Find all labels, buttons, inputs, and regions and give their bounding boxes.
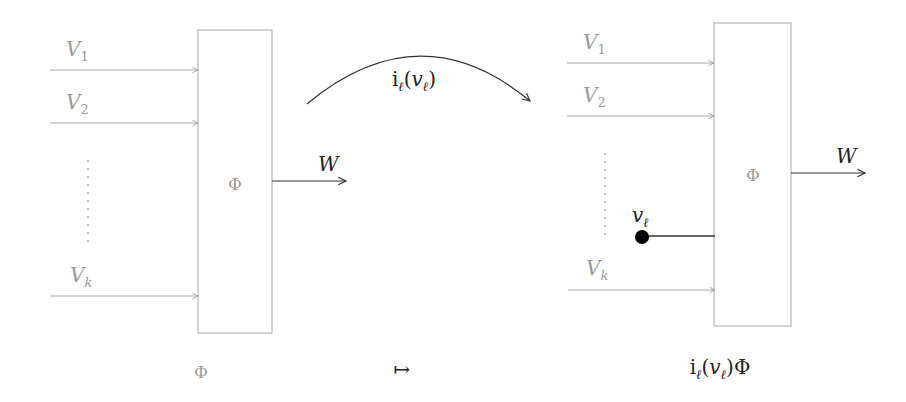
left-output-w: W [272, 152, 346, 181]
right-input-vk-label: Vk [586, 256, 608, 283]
left-ellipsis-dots [87, 160, 89, 242]
left-diagram: Φ V1 V2 Vk [50, 30, 346, 382]
left-caption: Φ [194, 362, 208, 382]
plugged-value-dot [635, 230, 649, 244]
right-output-label: W [836, 144, 858, 168]
right-input-v1: V1 [567, 30, 714, 63]
right-input-vk: Vk [568, 256, 715, 290]
right-input-v1-label: V1 [583, 30, 606, 57]
right-box-label: Φ [746, 165, 760, 185]
plugged-input-vl: vℓ [632, 203, 715, 244]
left-output-label: W [318, 152, 340, 176]
maps-to-arrow: ↦ [394, 357, 411, 381]
right-diagram: Φ V1 V2 vℓ [567, 23, 865, 382]
plugged-value-label: vℓ [632, 203, 649, 230]
right-ellipsis-dots [604, 153, 606, 235]
left-box-label: Φ [228, 174, 242, 194]
right-input-v2: V2 [567, 83, 714, 116]
left-input-vk-label: Vk [70, 263, 92, 290]
left-input-v2: V2 [50, 90, 198, 123]
right-caption: iℓ(vℓ)Φ [690, 355, 751, 382]
left-input-v1-label: V1 [66, 37, 89, 64]
left-input-v1: V1 [50, 37, 198, 70]
left-input-vk: Vk [50, 263, 198, 296]
diagram-canvas: Φ V1 V2 Vk [0, 0, 906, 402]
transform-arc: iℓ(vℓ) [307, 56, 530, 104]
right-input-v2-label: V2 [583, 83, 606, 110]
right-output-w: W [791, 144, 865, 173]
left-input-v2-label: V2 [66, 90, 89, 117]
arc-label: iℓ(vℓ) [392, 67, 436, 94]
